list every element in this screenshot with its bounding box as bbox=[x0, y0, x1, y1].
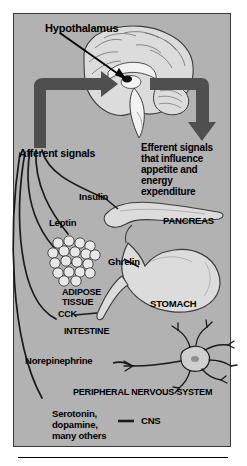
adipose-line-2: TISSUE bbox=[62, 297, 93, 307]
efferent-line-5: expenditure bbox=[141, 186, 195, 197]
intestine-label: INTESTINE bbox=[64, 326, 109, 336]
peripheral-nervous-system-label: PERIPHERAL NERVOUS SYSTEM bbox=[73, 387, 212, 397]
stomach-label: STOMACH bbox=[150, 299, 196, 310]
hypothalamus-label: Hypothalamus bbox=[45, 22, 118, 34]
pancreas-label: PANCREAS bbox=[163, 216, 214, 227]
efferent-line-4: energy bbox=[141, 175, 173, 186]
cns-label: CNS bbox=[141, 416, 160, 427]
insulin-label: Insulin bbox=[79, 192, 108, 203]
adipose-cells-icon bbox=[48, 236, 100, 286]
neuron-icon bbox=[124, 320, 237, 393]
ghrelin-label: Ghrelin bbox=[108, 257, 140, 268]
efferent-line-3: appetite and bbox=[141, 164, 198, 175]
intestine-icon bbox=[75, 313, 97, 315]
bottom-rule bbox=[18, 457, 228, 458]
cns-line-3: many others bbox=[52, 431, 106, 442]
cck-label: CCK bbox=[58, 309, 77, 319]
efferent-line-1: Efferent signals bbox=[141, 142, 213, 153]
figure-container: Hypothalamus Afferent signals Efferent s… bbox=[0, 0, 247, 466]
efferent-line-2: that influence bbox=[141, 153, 203, 164]
afferent-signals-label: Afferent signals bbox=[19, 148, 95, 160]
norepinephrine-label: Norepinephrine bbox=[25, 356, 92, 367]
leptin-label: Leptin bbox=[49, 218, 76, 229]
adipose-line-1: ADIPOSE bbox=[62, 287, 101, 297]
